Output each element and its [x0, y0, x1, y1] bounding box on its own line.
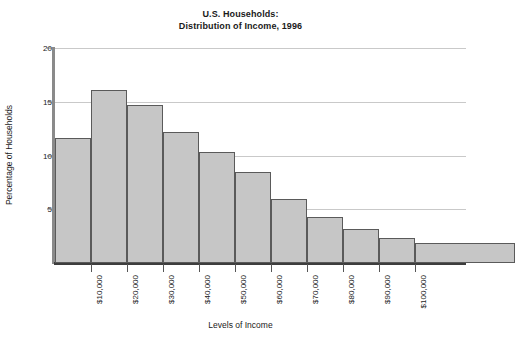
bar — [127, 105, 163, 263]
x-tick-label: $40,000 — [203, 275, 212, 304]
x-tick-label: $50,000 — [239, 275, 248, 304]
bar — [379, 238, 415, 263]
plot-area — [55, 48, 466, 263]
x-tick-mark — [199, 264, 200, 272]
x-tick-label: $80,000 — [347, 275, 356, 304]
x-tick-mark — [271, 264, 272, 272]
bar — [271, 199, 307, 264]
x-tick-label: $30,000 — [167, 275, 176, 304]
x-tick-label: $10,000 — [95, 275, 104, 304]
gridline — [55, 48, 466, 49]
x-tick-label: $70,000 — [311, 275, 320, 304]
bar — [343, 229, 379, 263]
x-tick-mark — [91, 264, 92, 272]
x-tick-mark — [343, 264, 344, 272]
x-tick-mark — [235, 264, 236, 272]
x-tick-mark — [127, 264, 128, 272]
x-tick-mark — [379, 264, 380, 272]
x-tick-label: $20,000 — [131, 275, 140, 304]
bar — [55, 138, 91, 263]
x-tick-mark — [163, 264, 164, 272]
x-tick-mark — [415, 264, 416, 272]
title-line-2: Distribution of Income, 1996 — [0, 21, 481, 33]
x-tick-label: $90,000 — [383, 275, 392, 304]
bar — [163, 132, 199, 263]
title-line-1: U.S. Households: — [0, 9, 481, 21]
x-axis-title: Levels of Income — [0, 320, 481, 330]
bar — [307, 217, 343, 263]
bar — [235, 172, 271, 263]
y-axis-ticks: 5101520 — [0, 0, 52, 350]
bar — [415, 243, 515, 263]
x-tick-label: $60,000 — [275, 275, 284, 304]
bar — [199, 152, 235, 263]
page-title: U.S. Households: Distribution of Income,… — [0, 9, 481, 32]
x-tick-label: $100,000 — [419, 275, 428, 308]
bar — [91, 90, 127, 263]
x-tick-mark — [307, 264, 308, 272]
